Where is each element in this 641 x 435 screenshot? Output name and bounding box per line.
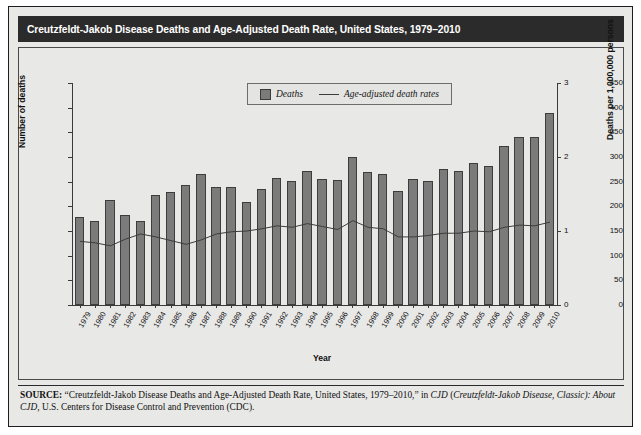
x-tick [504,305,505,308]
source-divider [18,385,624,386]
x-tick [383,305,384,308]
y-tick-label-right: 3 [564,78,568,87]
y-tick-label-left: 250 [577,177,623,186]
source-text-c: , U.S. Centers for Disease Control and P… [37,402,254,412]
chart-panel: Deaths Age-adjusted death rates 05010015… [18,47,624,380]
y-tick-label-left: 0 [577,300,623,309]
x-tick [398,305,399,308]
x-tick [95,305,96,308]
y-tick-label-right: 2 [564,152,568,161]
figure-container: Creutzfeldt-Jakob Disease Deaths and Age… [8,6,633,427]
page-title: Creutzfeldt-Jakob Disease Deaths and Age… [18,24,460,35]
x-tick [307,305,308,308]
x-tick [125,305,126,308]
x-tick [337,305,338,308]
x-tick [155,305,156,308]
y-tick-label-left: 100 [577,251,623,260]
age-adjusted-rate-line [80,221,550,246]
x-tick [534,305,535,308]
x-tick [110,305,111,308]
x-tick [261,305,262,308]
y-tick-label-left: 450 [577,78,623,87]
y-axis-right-title: Deaths per 1,000,000 persons [605,19,615,140]
x-tick [519,305,520,308]
x-tick [428,305,429,308]
source-prefix: SOURCE: [20,390,62,400]
x-tick [216,305,217,308]
x-tick [186,305,187,308]
source-note: SOURCE: “Creutzfeldt-Jakob Disease Death… [20,389,622,414]
x-tick [549,305,550,308]
y-tick-label-left: 50 [577,275,623,284]
x-tick [352,305,353,308]
x-tick [80,305,81,308]
figure-title-band: Creutzfeldt-Jakob Disease Deaths and Age… [18,16,624,42]
source-italic-cjd: CJD [431,390,448,400]
y-tick-label-left: 350 [577,127,623,136]
x-tick [474,305,475,308]
x-tick [413,305,414,308]
x-tick [140,305,141,308]
source-text-a: “Creutzfeldt-Jakob Disease Deaths and Ag… [62,390,430,400]
x-axis-title: Year [19,353,625,363]
x-tick [246,305,247,308]
x-tick [458,305,459,308]
x-tick [277,305,278,308]
x-tick [489,305,490,308]
x-tick [322,305,323,308]
y-tick-label-left: 300 [577,152,623,161]
y-tick-label-right: 0 [564,300,568,309]
x-tick [231,305,232,308]
y-tick-label-left: 400 [577,103,623,112]
x-tick [368,305,369,308]
x-tick [292,305,293,308]
y-tick-label-left: 150 [577,226,623,235]
line-series-overlay [72,83,558,306]
y-tick-label-left: 200 [577,201,623,210]
y-axis-left-title: Number of deaths [17,75,27,148]
x-tick [443,305,444,308]
x-tick [171,305,172,308]
x-tick [201,305,202,308]
y-tick-label-right: 1 [564,226,568,235]
